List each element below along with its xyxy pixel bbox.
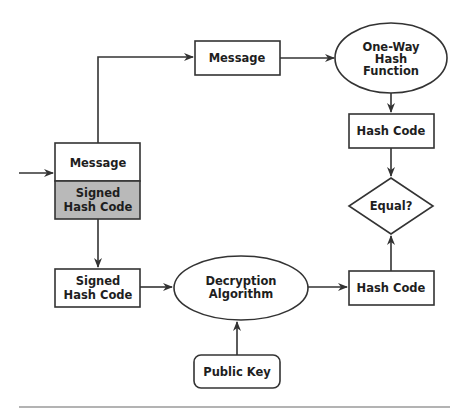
- signed-hash-label-line1: Signed: [76, 274, 121, 288]
- hash-code-decrypted-label: Hash Code: [357, 281, 426, 295]
- received-signed-hash-node: Signed Hash Code: [55, 181, 140, 219]
- hash-code-decrypted-node: Hash Code: [349, 271, 434, 305]
- message-label: Message: [209, 51, 266, 65]
- received-signed-hash-label-line1: Signed: [76, 186, 121, 200]
- public-key-node: Public Key: [194, 355, 280, 388]
- equal-node: Equal?: [349, 178, 433, 234]
- equal-label: Equal?: [370, 199, 413, 213]
- edge-received-message-to-message: [98, 57, 193, 143]
- received-message-node: Message: [55, 143, 140, 181]
- signed-hash-node: Signed Hash Code: [55, 269, 140, 307]
- received-message-label: Message: [70, 156, 127, 170]
- decryption-label-line2: Algorithm: [209, 287, 273, 301]
- hash-code-computed-label: Hash Code: [357, 124, 426, 138]
- public-key-label: Public Key: [203, 365, 271, 379]
- hash-code-computed-node: Hash Code: [349, 114, 434, 148]
- decryption-label-line1: Decryption: [205, 274, 276, 288]
- message-node: Message: [195, 41, 280, 75]
- hash-function-label-line3: Function: [363, 64, 419, 78]
- received-signed-hash-label-line2: Hash Code: [64, 200, 133, 214]
- signed-hash-label-line2: Hash Code: [64, 288, 133, 302]
- hash-function-node: One-Way Hash Function: [335, 23, 447, 93]
- signature-verification-diagram: Message Signed Hash Code Message One-Way…: [0, 0, 464, 413]
- decryption-node: Decryption Algorithm: [174, 256, 308, 320]
